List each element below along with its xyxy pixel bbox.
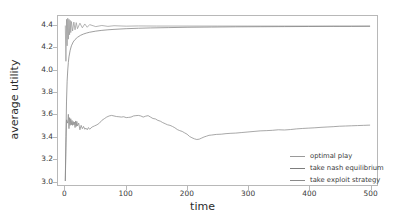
y-axis-label: average utility — [8, 35, 21, 165]
x-tick-label: 0 — [62, 190, 67, 197]
chart-legend: optimal playtake nash equilibriumtake ex… — [290, 152, 384, 185]
y-tick-mark — [53, 137, 57, 138]
y-tick-label: 3.2 — [41, 155, 53, 162]
x-tick-label: 400 — [302, 190, 316, 197]
legend-item: take nash equilibrium — [290, 164, 384, 173]
x-tick-mark — [64, 186, 65, 190]
y-tick-mark — [53, 25, 57, 26]
y-tick-label: 3.8 — [41, 88, 53, 95]
x-tick-label: 200 — [180, 190, 194, 197]
y-tick-label: 3.4 — [41, 133, 53, 140]
legend-item-label: take exploit strategy — [310, 177, 380, 184]
y-tick-mark — [53, 92, 57, 93]
y-tick-mark — [53, 70, 57, 71]
x-axis-label: time — [0, 200, 405, 213]
x-tick-label: 500 — [364, 190, 378, 197]
x-tick-mark — [371, 186, 372, 190]
x-tick-mark — [126, 186, 127, 190]
y-tick-mark — [53, 47, 57, 48]
y-tick-label: 3.6 — [41, 110, 53, 117]
x-tick-label: 100 — [119, 190, 133, 197]
y-tick-mark — [53, 159, 57, 160]
legend-item: optimal play — [290, 152, 384, 161]
y-tick-mark — [53, 182, 57, 183]
legend-item-label: take nash equilibrium — [310, 165, 384, 172]
y-tick-mark — [53, 114, 57, 115]
x-tick-mark — [187, 186, 188, 190]
legend-item: take exploit strategy — [290, 176, 384, 185]
x-tick-mark — [309, 186, 310, 190]
legend-line-swatch — [290, 168, 305, 169]
y-tick-label: 4.0 — [41, 66, 53, 73]
y-tick-label: 3.0 — [41, 178, 53, 185]
legend-item-label: optimal play — [310, 153, 352, 160]
x-tick-mark — [248, 186, 249, 190]
x-tick-label: 300 — [241, 190, 255, 197]
series-line-0 — [65, 18, 369, 61]
y-tick-label: 4.4 — [41, 21, 53, 28]
y-tick-label: 4.2 — [41, 43, 53, 50]
legend-line-swatch — [290, 156, 305, 157]
chart-figure: 3.03.23.43.63.84.04.24.4 010020030040050… — [0, 0, 405, 222]
legend-line-swatch — [290, 180, 305, 181]
